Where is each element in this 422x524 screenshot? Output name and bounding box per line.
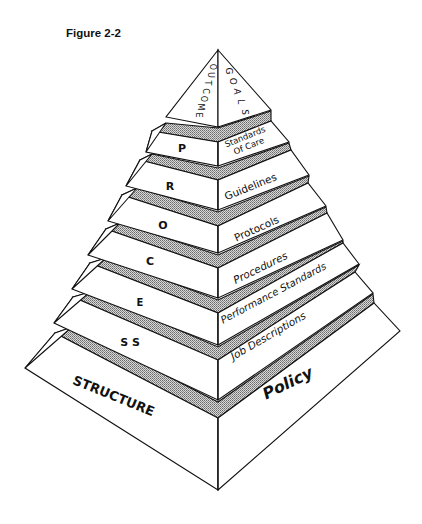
- level-left-label: R: [166, 180, 175, 193]
- pyramid-diagram: STRUCTUREPolicyS SJob DescriptionsEPerfo…: [0, 0, 422, 524]
- cap-letter: S: [240, 109, 250, 115]
- cap-letter: C: [201, 88, 210, 94]
- level-left-label: O: [158, 219, 167, 232]
- level-left-label: P: [178, 142, 186, 155]
- cap-letter: T: [203, 80, 212, 86]
- cap-letter: M: [196, 104, 205, 111]
- level-left-label: C: [146, 255, 154, 268]
- cap-letter: O: [199, 96, 208, 102]
- cap-letter: E: [194, 112, 203, 117]
- level-left-label: E: [137, 297, 144, 308]
- cap-letter: G: [224, 68, 234, 75]
- cap-letter: L: [236, 99, 246, 104]
- cap-letter: O: [228, 78, 238, 85]
- cap-letter: U: [206, 72, 215, 78]
- cap-letter: O: [208, 64, 217, 70]
- level-left-label: S S: [120, 336, 140, 349]
- pyramid-cap: OUTCOMEGOALS: [166, 50, 271, 127]
- cap-letter: A: [232, 88, 242, 95]
